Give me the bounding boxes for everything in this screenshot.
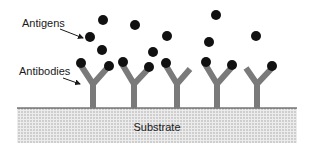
free-antigens <box>85 10 261 57</box>
antigen-dot <box>201 57 211 67</box>
antigen-dot <box>144 62 154 72</box>
antigen-dot <box>161 58 171 68</box>
antigen-dot <box>148 47 158 57</box>
substrate-label: Substrate <box>133 121 180 133</box>
antigen-dot <box>162 31 172 41</box>
antibody-3 <box>165 64 190 108</box>
antigen-dot <box>97 45 107 55</box>
antigens-label: Antigens <box>22 17 65 29</box>
antigen-dot <box>98 15 108 25</box>
antigen-dot <box>85 32 95 42</box>
antibody-5 <box>246 68 272 108</box>
antigens-callout: Antigens <box>22 17 83 38</box>
antibody-4 <box>205 64 232 108</box>
antigen-dot <box>227 60 237 70</box>
antigen-dot <box>251 31 261 41</box>
antigen-dot <box>104 61 114 71</box>
antibody-1 <box>80 64 109 108</box>
antibodies-callout: Antibodies <box>19 65 80 84</box>
antigen-dot <box>211 10 221 20</box>
antigen-dot <box>204 37 214 47</box>
antigen-dot <box>267 61 277 71</box>
antigen-dot <box>76 58 86 68</box>
antigen-dot <box>118 57 128 67</box>
substrate: Substrate <box>17 108 297 143</box>
antigen-dot <box>130 20 140 30</box>
immunoassay-diagram: Substrate <box>0 0 313 151</box>
antibodies-label: Antibodies <box>19 65 71 77</box>
